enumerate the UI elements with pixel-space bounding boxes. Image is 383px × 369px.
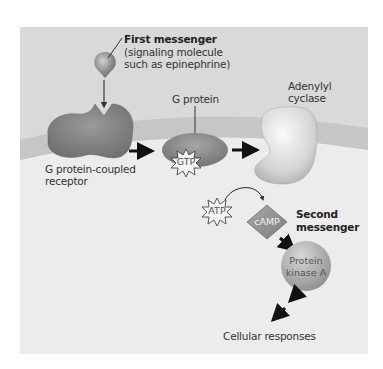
pka-label-line2: kinase A bbox=[281, 267, 331, 278]
g-protein-label: G protein bbox=[172, 93, 219, 106]
receptor-label-line2: receptor bbox=[45, 175, 88, 188]
first-messenger-desc-line1: (signaling molecule bbox=[124, 46, 223, 59]
second-messenger-label-line1: Second bbox=[296, 208, 338, 221]
gtp-label: GTP bbox=[173, 156, 199, 167]
atp-label: ATP bbox=[204, 205, 230, 216]
receptor-label-line1: G protein-coupled bbox=[45, 163, 136, 176]
first-messenger-desc-line2: such as epinephrine) bbox=[124, 58, 230, 71]
cellular-responses-label: Cellular responses bbox=[223, 330, 316, 343]
protein-kinase-a bbox=[281, 241, 331, 291]
adenylyl-cyclase-label-line2: cyclase bbox=[288, 92, 326, 105]
pka-label-line1: Protein bbox=[281, 255, 331, 266]
signal-transduction-diagram: First messenger (signaling molecule such… bbox=[0, 0, 383, 369]
adenylyl-cyclase-label-line1: Adenylyl bbox=[288, 80, 331, 93]
second-messenger-label-line2: messenger bbox=[296, 221, 359, 234]
camp-label: cAMP bbox=[249, 216, 285, 227]
first-messenger-title: First messenger bbox=[124, 33, 217, 46]
